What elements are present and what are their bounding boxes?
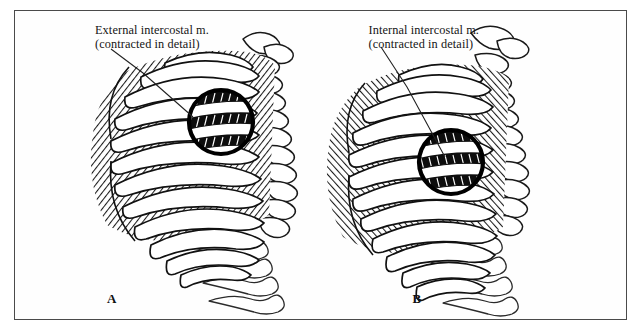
panel-a: External intercostal m. (contracted in d… xyxy=(15,11,321,319)
callout-label-b: Internal intercostal m. (contracted in d… xyxy=(369,23,480,51)
ribcage-illustration-b xyxy=(321,11,627,319)
panel-b: Internal intercostal m. (contracted in d… xyxy=(321,11,627,319)
panel-letter-b: B xyxy=(413,291,422,307)
callout-line2: (contracted in detail) xyxy=(95,37,209,51)
callout-line1: Internal intercostal m. xyxy=(369,23,480,37)
callout-line1: External intercostal m. xyxy=(95,23,209,37)
figure-border: External intercostal m. (contracted in d… xyxy=(14,10,627,320)
ribcage-illustration-a xyxy=(15,11,321,319)
callout-line2: (contracted in detail) xyxy=(369,37,480,51)
panel-letter-a: A xyxy=(107,291,116,307)
callout-label-a: External intercostal m. (contracted in d… xyxy=(95,23,209,51)
